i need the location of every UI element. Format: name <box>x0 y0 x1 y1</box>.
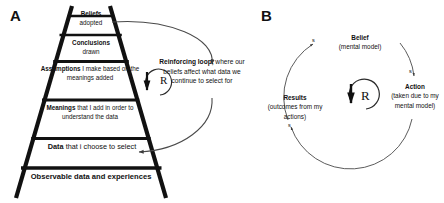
ladder-rung-assumptions-bold: Assumptions <box>41 65 81 72</box>
loop-node-belief: Belief (mental model) <box>322 33 398 52</box>
loop-node-results-subtitle: (outcomes from my actions) <box>264 102 326 121</box>
ladder-rung-data-bold: Data <box>48 142 64 151</box>
polarity-mark-belief: s <box>312 37 315 43</box>
ladder-rung-data-rest: that i choose to select <box>64 142 137 151</box>
reinforcing-r-label-a: R <box>160 74 167 86</box>
loop-node-belief-subtitle: (mental model) <box>322 42 398 51</box>
ladder-rung-data: Data that i choose to select <box>36 142 148 152</box>
loop-node-results-title: Results <box>264 93 326 102</box>
diagram-vector-layer <box>0 0 444 203</box>
polarity-mark-results: s <box>288 122 291 128</box>
figure-root: A B <box>0 0 444 203</box>
loop-node-action-title: Action <box>386 82 444 91</box>
ladder-shape <box>16 6 166 198</box>
reinforcing-loop-caption-bold: Reinforcing loop, <box>159 58 213 65</box>
ladder-rung-meanings-rest: that I add in order to understand the da… <box>62 104 134 120</box>
panel-a-label: A <box>10 7 21 24</box>
ladder-rung-observable: Observable data and experiences <box>16 172 166 183</box>
ladder-rung-beliefs-rest: adopted <box>80 19 103 26</box>
reinforcing-r-label-b: R <box>361 88 370 104</box>
ladder-rung-conclusions-rest: drawn <box>82 48 99 55</box>
panel-b-label: B <box>261 7 272 24</box>
loop-node-results: Results (outcomes from my actions) <box>264 93 326 121</box>
polarity-mark-action: s <box>409 68 412 74</box>
reinforcing-loop-caption: Reinforcing loop, where our beliefs affe… <box>158 57 246 86</box>
ladder-rung-conclusions-bold: Conclusions <box>72 39 110 46</box>
loop-node-action: Action (taken due to my mental model) <box>386 82 444 110</box>
ladder-rung-observable-bold: Observable data and experiences <box>31 172 152 181</box>
ladder-rung-assumptions: Assumptions I make based on the meanings… <box>38 65 142 83</box>
ladder-rung-conclusions: Conclusions drawn <box>58 39 124 57</box>
ladder-rung-assumptions-rest: I make based on the meanings added <box>67 65 140 81</box>
ladder-rung-beliefs: Beliefs adopted <box>64 10 118 28</box>
loop-node-belief-title: Belief <box>322 33 398 42</box>
ladder-rung-beliefs-bold: Beliefs <box>81 10 102 17</box>
ladder-rung-meanings: Meanings that I add in order to understa… <box>33 104 147 122</box>
ladder-rung-meanings-bold: Meanings <box>46 104 75 111</box>
loop-node-action-subtitle: (taken due to my mental model) <box>386 91 444 110</box>
reinforcing-loop-arrow <box>112 21 212 152</box>
